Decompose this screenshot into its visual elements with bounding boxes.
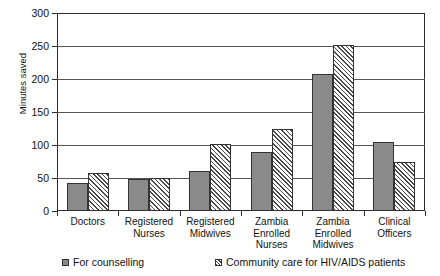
bar-group (364, 13, 425, 211)
y-tick-label: 150 (3, 107, 49, 117)
bar (189, 171, 210, 211)
bar-chart: Minutes saved 050100150200250300 Doctors… (0, 0, 440, 276)
x-axis-label: ClinicalOfficers (364, 216, 425, 239)
y-tick-label: 250 (3, 41, 49, 51)
bar (312, 74, 333, 211)
x-axis-label: ZambiaEnrolledMidwives (302, 216, 363, 251)
bar (394, 162, 415, 211)
x-axis-label: Doctors (57, 216, 118, 228)
y-tick-label: 100 (3, 140, 49, 150)
bar-group (302, 13, 363, 211)
y-tick-label: 0 (3, 206, 49, 216)
legend-label: For counselling (73, 256, 144, 268)
bar (210, 144, 231, 211)
bar (272, 129, 293, 211)
legend-swatch-hatch (215, 259, 222, 266)
legend-swatch-solid (62, 259, 69, 266)
legend-item: Community care for HIV/AIDS patients (215, 256, 405, 268)
x-tick-mark (425, 211, 426, 216)
x-tick-mark (57, 211, 58, 216)
x-axis-label: RegisteredMidwives (180, 216, 241, 239)
bar-group (118, 13, 179, 211)
bar (88, 173, 109, 211)
y-tick-label: 200 (3, 74, 49, 84)
bar (149, 178, 170, 211)
bar-group (180, 13, 241, 211)
bar (251, 152, 272, 211)
y-tick-label: 300 (3, 8, 49, 18)
bar (333, 45, 354, 211)
bar-group (57, 13, 118, 211)
bar (128, 179, 149, 211)
bar-group (241, 13, 302, 211)
bars-layer (57, 13, 425, 211)
x-axis-label: RegisteredNurses (118, 216, 179, 239)
bar (373, 142, 394, 211)
x-axis-label: ZambiaEnrolledNurses (241, 216, 302, 251)
y-tick-label: 50 (3, 173, 49, 183)
bar (67, 183, 88, 211)
legend-label: Community care for HIV/AIDS patients (226, 256, 405, 268)
legend-item: For counselling (62, 256, 144, 268)
chart-legend: For counsellingCommunity care for HIV/AI… (0, 256, 440, 272)
